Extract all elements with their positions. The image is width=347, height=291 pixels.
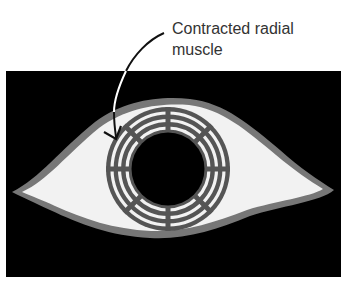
eye-diagram [0,0,347,291]
pointer-arrow-upper [126,33,164,71]
iris [106,107,230,231]
pupil [132,133,205,206]
